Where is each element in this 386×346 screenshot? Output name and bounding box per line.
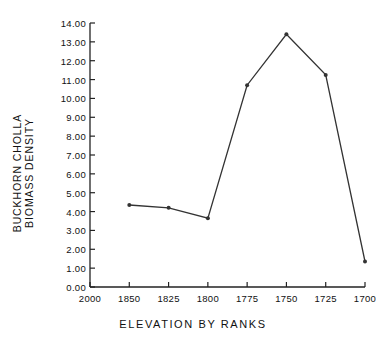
data-point-marker bbox=[127, 203, 131, 207]
y-axis-tick-marks bbox=[90, 23, 95, 287]
data-series-line bbox=[129, 34, 365, 261]
data-point-marker bbox=[167, 206, 171, 210]
data-point-marker bbox=[206, 216, 210, 220]
data-point-marker bbox=[284, 32, 288, 36]
data-point-markers bbox=[127, 32, 367, 263]
plot-area bbox=[0, 0, 386, 346]
axis-lines bbox=[90, 23, 365, 287]
data-point-marker bbox=[363, 260, 367, 264]
data-point-marker bbox=[324, 73, 328, 77]
chart-figure: BUCKHORN CHOLLA BIOMASS DENSITY 0.001.00… bbox=[0, 0, 386, 346]
data-point-marker bbox=[245, 83, 249, 87]
x-axis-tick-marks bbox=[90, 282, 365, 287]
